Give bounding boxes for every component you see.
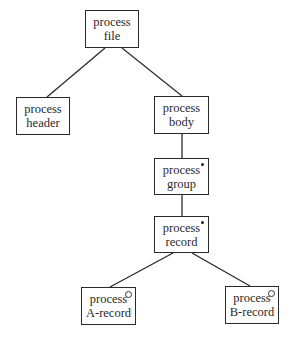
node-label-line2: B-record — [230, 305, 274, 319]
node-process-file: process file — [85, 10, 139, 48]
node-label-line1: process — [163, 101, 201, 115]
node-process-record: process record — [154, 216, 209, 253]
node-label-line1: process — [24, 102, 62, 116]
node-process-b-record: process B-record — [225, 286, 279, 324]
node-label-line2: header — [26, 116, 59, 130]
node-label-line2: body — [169, 115, 194, 129]
node-label-line2: file — [104, 29, 121, 43]
node-label-line1: process — [163, 221, 201, 235]
node-label-line1: process — [90, 292, 128, 306]
edge-file-body — [122, 48, 182, 96]
node-label-line2: record — [166, 235, 198, 249]
node-label-line2: A-record — [86, 306, 131, 320]
iteration-marker-icon — [201, 221, 204, 224]
edge-record-b-record — [192, 253, 250, 286]
selection-marker-icon — [125, 291, 132, 298]
selection-marker-icon — [268, 290, 275, 297]
node-label-line2: group — [167, 177, 196, 191]
node-process-body: process body — [154, 96, 209, 134]
edge-file-header — [47, 48, 105, 97]
node-label-line1: process — [233, 291, 271, 305]
iteration-marker-icon — [201, 163, 204, 166]
node-label-line1: process — [93, 15, 131, 29]
node-label-line1: process — [163, 163, 201, 177]
edge-record-a-record — [110, 253, 173, 287]
node-process-header: process header — [16, 97, 70, 135]
node-process-a-record: process A-record — [81, 287, 136, 325]
node-process-group: process group — [154, 158, 209, 195]
